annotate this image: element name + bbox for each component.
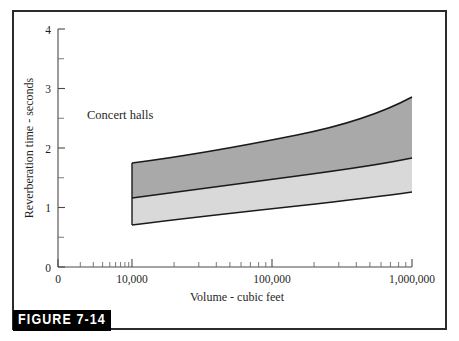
x-tick-label-1000000: 1,000,000 (389, 273, 435, 286)
x-axis-title: Volume - cubic feet (190, 290, 285, 304)
figure-caption-label: FIGURE 7-14 (18, 314, 106, 328)
y-tick-label-1: 1 (45, 202, 51, 214)
x-tick-label-0: 0 (55, 273, 61, 285)
x-tick-label-10000: 10,000 (116, 273, 148, 286)
y-tick-label-2: 2 (45, 143, 51, 155)
figure-caption-plate: FIGURE 7-14 (13, 310, 111, 331)
y-tick-label-4: 4 (45, 24, 51, 36)
y-axis-title: Reverberation time - seconds (22, 78, 36, 219)
reverberation-time-chart: 4 3 2 1 0 0 10,000 100,000 1,000,000 Vol… (12, 10, 447, 330)
annotation-concert-halls: Concert halls (87, 108, 153, 122)
y-axis-major-ticks (58, 29, 65, 267)
chart-plot-area: 4 3 2 1 0 0 10,000 100,000 1,000,000 Vol… (12, 10, 447, 330)
x-tick-label-100000: 100,000 (253, 273, 291, 286)
figure-root: 4 3 2 1 0 0 10,000 100,000 1,000,000 Vol… (0, 0, 459, 341)
y-tick-label-0: 0 (45, 262, 51, 274)
y-tick-label-3: 3 (45, 83, 51, 95)
x-axis-minor-ticks (80, 262, 406, 267)
x-axis-major-ticks (58, 259, 412, 267)
